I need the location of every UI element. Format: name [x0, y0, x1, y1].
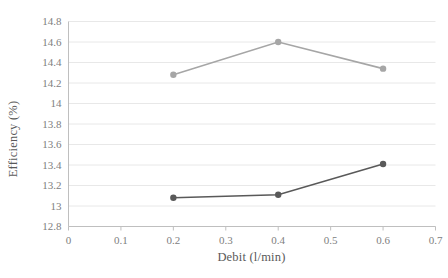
x-tick-label: 0.1	[114, 234, 128, 246]
y-tick-label: 13.2	[42, 179, 61, 191]
x-tick-label: 0.7	[429, 234, 443, 246]
x-tick-labels-group: 00.10.20.30.40.50.60.7	[66, 234, 443, 246]
series-line	[173, 42, 383, 75]
x-tick-label: 0	[66, 234, 72, 246]
y-tick-label: 14.8	[42, 15, 62, 27]
y-tick-label: 14.2	[42, 77, 61, 89]
data-point	[170, 195, 176, 201]
y-tick-label: 14	[51, 97, 63, 109]
y-tick-label: 13.8	[42, 118, 62, 130]
chart-container: Efficiency (%) 12.81313.213.413.613.8141…	[0, 0, 448, 278]
x-tick-label: 0.3	[219, 234, 233, 246]
x-tick-label: 0.4	[271, 234, 285, 246]
data-point	[275, 192, 281, 198]
data-point	[275, 39, 281, 45]
y-tick-label: 13	[51, 200, 63, 212]
y-tick-label: 13.6	[42, 138, 62, 150]
data-point	[170, 72, 176, 78]
x-tick-label: 0.6	[376, 234, 390, 246]
x-tick-label: 0.2	[166, 234, 180, 246]
x-tick-marks-group	[69, 227, 436, 231]
y-tick-label: 12.8	[42, 220, 62, 232]
data-point	[380, 65, 386, 71]
x-axis-title: Debit (l/min)	[68, 250, 435, 265]
y-tick-labels-group: 12.81313.213.413.613.81414.214.414.614.8	[42, 15, 62, 232]
y-tick-label: 14.4	[42, 56, 62, 68]
data-series-group	[170, 39, 386, 201]
y-tick-label: 13.4	[42, 159, 62, 171]
data-point	[380, 161, 386, 167]
y-tick-label: 14.6	[42, 36, 62, 48]
chart-plot-area: 12.81313.213.413.613.81414.214.414.614.8…	[0, 0, 448, 278]
x-tick-label: 0.5	[324, 234, 338, 246]
